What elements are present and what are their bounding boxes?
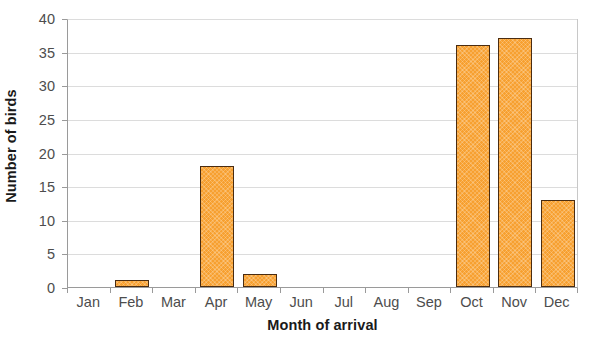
y-axis-tick-mark: [62, 53, 67, 54]
x-axis-tick-label: Jan: [77, 294, 100, 310]
x-axis-tick-label: Jul: [335, 294, 354, 310]
bar-may: [243, 274, 277, 287]
y-axis-tick-mark: [62, 154, 67, 155]
x-axis-tick-label: Nov: [501, 294, 527, 310]
x-axis-tick-mark: [408, 288, 409, 293]
y-axis-tick-mark: [62, 221, 67, 222]
y-axis-tick-label: 35: [39, 45, 55, 61]
bar-chart: Number of birds 0510152025303540 JanFebM…: [0, 0, 592, 346]
x-axis-tick-mark: [577, 288, 578, 293]
y-axis-tick-mark: [62, 254, 67, 255]
x-axis-tick-labels: JanFebMarAprMayJunJulAugSepOctNovDec: [67, 294, 578, 316]
x-axis-tick-label: Apr: [205, 294, 228, 310]
y-axis-tick-mark: [62, 288, 67, 289]
y-axis-tick-label: 0: [47, 280, 55, 296]
x-axis-tick-label: May: [245, 294, 272, 310]
plot-area: [67, 19, 578, 288]
x-axis-tick-label: Mar: [161, 294, 186, 310]
y-axis-tick-mark: [62, 86, 67, 87]
y-axis-tick-mark: [62, 19, 67, 20]
bar-apr: [200, 166, 234, 287]
y-axis-tick-label: 20: [39, 146, 55, 162]
x-axis-tick-mark: [450, 288, 451, 293]
x-axis-tick-mark: [365, 288, 366, 293]
x-axis-tick-label: Feb: [118, 294, 143, 310]
y-axis-tick-label: 30: [39, 78, 55, 94]
x-axis-tick-label: Jun: [290, 294, 313, 310]
x-axis-tick-label: Oct: [460, 294, 483, 310]
x-axis-tick-label: Dec: [544, 294, 570, 310]
bar-nov: [498, 38, 532, 287]
y-axis-tick-label: 10: [39, 213, 55, 229]
x-axis-tick-mark: [237, 288, 238, 293]
x-axis-tick-label: Aug: [373, 294, 399, 310]
x-axis-tick-mark: [280, 288, 281, 293]
y-axis-title-label: Number of birds: [3, 89, 19, 202]
x-axis-tick-mark: [323, 288, 324, 293]
x-axis-tick-mark: [110, 288, 111, 293]
y-axis-tick-label: 40: [39, 11, 55, 27]
x-axis-tick-mark: [493, 288, 494, 293]
y-axis-title: Number of birds: [0, 0, 22, 292]
bar-oct: [456, 45, 490, 287]
x-axis-tick-mark: [195, 288, 196, 293]
y-axis-tick-mark: [62, 120, 67, 121]
x-axis-title: Month of arrival: [67, 317, 578, 333]
x-axis-tick-mark: [152, 288, 153, 293]
x-axis-tick-label: Sep: [416, 294, 442, 310]
y-axis-tick-label: 15: [39, 179, 55, 195]
y-axis-tick-label: 25: [39, 112, 55, 128]
y-axis-tick-labels: 0510152025303540: [22, 0, 62, 346]
x-axis-tick-mark: [535, 288, 536, 293]
bar-dec: [541, 200, 575, 287]
bar-feb: [115, 280, 149, 287]
bars-layer: [68, 20, 577, 287]
x-axis-tick-mark: [67, 288, 68, 293]
y-axis-tick-label: 5: [47, 246, 55, 262]
y-axis-tick-mark: [62, 187, 67, 188]
